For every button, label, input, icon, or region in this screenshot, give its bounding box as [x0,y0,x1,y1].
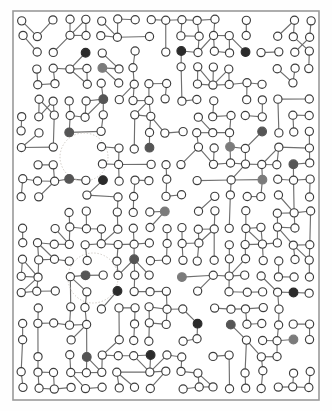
graph-node [163,175,171,183]
graph-node [209,113,217,121]
graph-node [258,113,266,121]
graph-node [114,240,122,248]
graph-node [241,144,249,152]
graph-node-highlighted [177,47,186,56]
graph-node-highlighted [99,95,108,104]
graph-node-highlighted [289,160,298,169]
graph-node [305,335,313,343]
graph-node [177,367,185,375]
graph-node [241,271,249,279]
graph-node [162,192,170,200]
graph-node [275,305,283,313]
graph-node [98,351,106,359]
graph-node [114,193,122,201]
graph-node [273,209,281,217]
graph-node [81,113,89,121]
graph-node [98,49,106,57]
graph-node [306,241,314,249]
graph-node [67,383,75,391]
graph-node [82,369,90,377]
graph-node [82,225,90,233]
graph-node [35,95,43,103]
graph-node [289,111,297,119]
graph-node [179,128,187,136]
graph-node [193,176,201,184]
graph-node [274,95,282,103]
graph-node [66,31,74,39]
graph-node [227,111,235,119]
graph-node [50,240,58,248]
graph-node [97,305,105,313]
graph-node [114,15,122,23]
graph-node [177,191,185,199]
graph-node-highlighted [113,287,122,296]
graph-node [194,48,202,56]
graph-node [129,224,137,232]
graph-node-highlighted [65,175,74,184]
graph-node [49,16,57,24]
graph-node [145,239,153,247]
graph-node-highlighted [289,335,298,344]
graph-node [242,384,250,392]
graph-node [81,303,89,311]
graph-node [19,31,27,39]
graph-node [50,111,58,119]
graph-node [257,48,265,56]
graph-node [114,271,122,279]
graph-node [33,32,41,40]
graph-node [146,223,154,231]
graph-node [242,31,250,39]
graph-node [66,15,74,23]
graph-node [258,160,266,168]
graph-node [193,80,201,88]
graph-node [145,32,153,40]
graph-node [162,367,170,375]
graph-node-highlighted [65,128,74,137]
graph-node [51,80,59,88]
graph-node [34,161,42,169]
graph-node [305,127,313,135]
graph-node [290,273,298,281]
graph-node [162,320,170,328]
graph-node [17,368,25,376]
graph-node [115,65,123,73]
graph-node [67,368,75,376]
graph-node [51,177,59,185]
graph-node [306,320,314,328]
graph-node [194,225,202,233]
graph-node [33,48,41,56]
graph-node [241,255,249,263]
graph-node [193,257,201,265]
graph-node [146,288,154,296]
graph-node [225,224,233,232]
graph-node [290,209,298,217]
graph-node [163,305,171,313]
graph-node [194,369,202,377]
graph-node-highlighted [226,142,235,151]
graph-node [81,384,89,392]
graph-node [193,16,201,24]
graph-node-highlighted [82,353,91,362]
graph-node [162,256,170,264]
graph-node [225,129,233,137]
graph-node [35,256,43,264]
graph-node [274,288,282,296]
graph-node [209,129,217,137]
graph-node [83,191,91,199]
graph-node [67,303,75,311]
graph-node [259,367,267,375]
graph-node [307,207,315,215]
graph-node-highlighted [81,48,90,57]
graph-node [18,113,26,121]
graph-node [274,32,282,40]
graph-node [97,143,105,151]
graph-node [146,208,154,216]
graph-node [131,304,139,312]
graph-node [211,304,219,312]
graph-node [195,32,203,40]
graph-node [305,289,313,297]
graph-node [98,17,106,25]
graph-node [17,127,25,135]
graph-node-highlighted [160,207,169,216]
graph-node [306,175,314,183]
